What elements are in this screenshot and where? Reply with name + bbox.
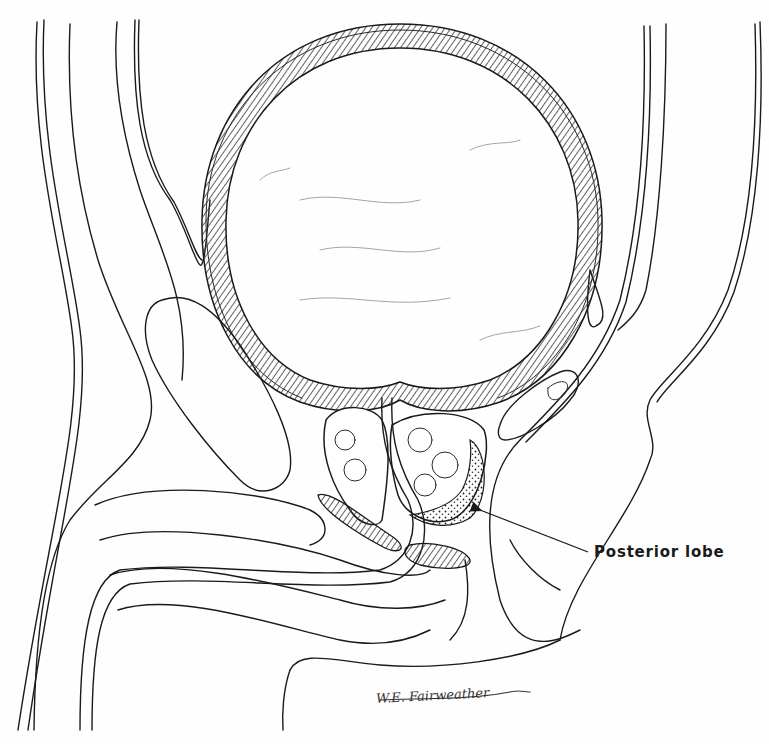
anatomical-illustration: Posterior lobe W.E. Fairweather: [0, 0, 769, 744]
left-abdominal-wall: [18, 20, 210, 730]
posterior-lobe-label: Posterior lobe: [594, 543, 725, 561]
pubic-bone: [145, 297, 290, 490]
bladder: [202, 24, 602, 411]
label-pointer-arrow: [480, 510, 588, 552]
illustration-drawing: [0, 0, 769, 744]
